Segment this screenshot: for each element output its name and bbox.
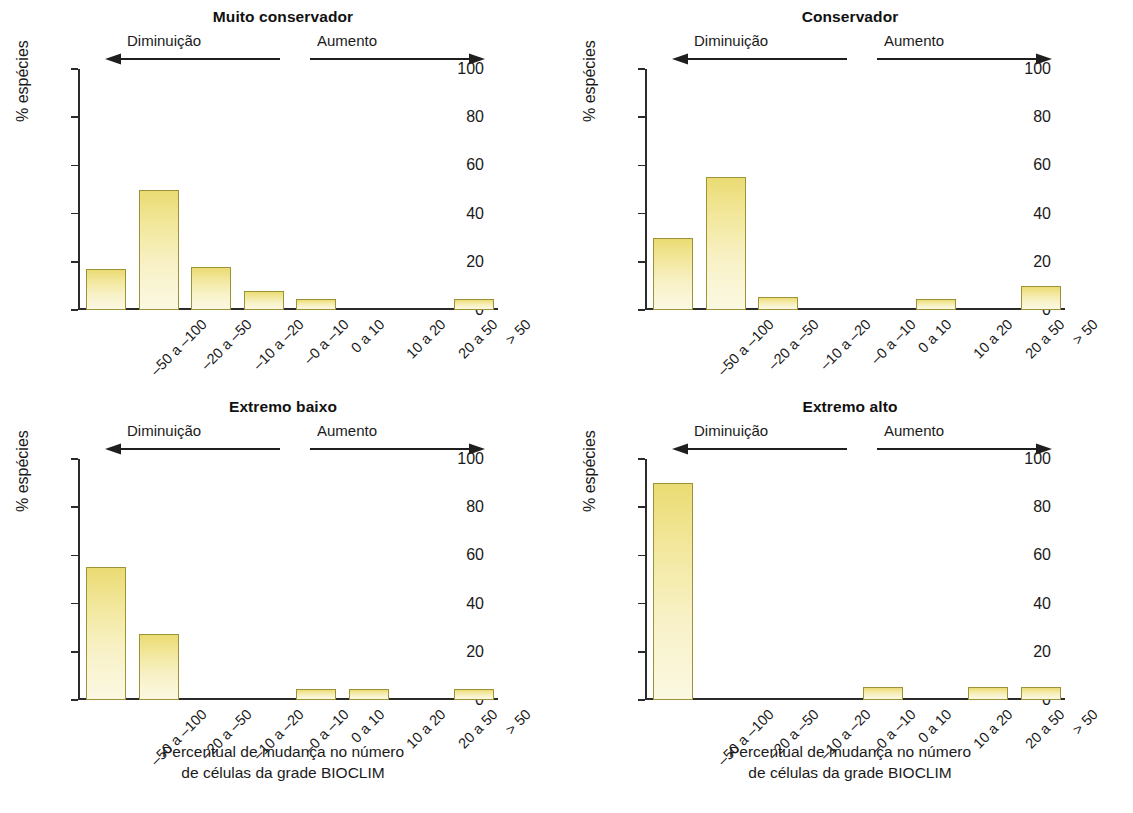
y-axis-label: % espécies xyxy=(14,430,32,512)
y-axis-tick-label: 40 xyxy=(466,594,484,612)
bar xyxy=(758,297,798,310)
bar xyxy=(139,190,179,311)
x-axis-tick-label: 10 a 20 xyxy=(970,316,1016,362)
bar xyxy=(349,689,389,700)
y-axis-tick-label: 20 xyxy=(1033,252,1051,270)
chart-panel-top-right: ConservadorDiminuiçãoAumento% espécies02… xyxy=(567,0,1133,406)
direction-annotations: DiminuiçãoAumento xyxy=(672,422,1052,464)
y-axis-tick xyxy=(638,458,645,460)
y-axis-tick-label: 60 xyxy=(1033,546,1051,564)
y-axis-label: % espécies xyxy=(581,430,599,512)
y-axis-tick xyxy=(71,603,78,605)
y-axis-tick-label: 60 xyxy=(466,156,484,174)
x-axis-tick-label: > 50 xyxy=(502,316,534,348)
panel-title: Conservador xyxy=(567,8,1133,26)
x-axis-tick-label: 20 a 50 xyxy=(1022,316,1068,362)
panel-title: Muito conservador xyxy=(0,8,566,26)
y-axis-tick xyxy=(638,309,645,311)
bar xyxy=(706,177,746,310)
y-axis-line xyxy=(645,69,647,310)
y-axis-tick xyxy=(71,699,78,701)
x-axis-caption: Percentual de mudança no númerode célula… xyxy=(567,742,1133,784)
y-axis-tick xyxy=(71,555,78,557)
y-axis-tick-label: 40 xyxy=(1033,204,1051,222)
decrease-arrow-icon xyxy=(105,52,280,66)
x-axis-tick-label: –50 a –100 xyxy=(715,316,778,379)
plot-area: 020406080100 xyxy=(645,69,1065,310)
x-axis-caption-line-2: de células da grade BIOCLIM xyxy=(567,763,1133,784)
x-axis-tick-label: 0 a 10 xyxy=(915,316,955,356)
decrease-label: Diminuição xyxy=(694,422,768,439)
y-axis-tick-label: 40 xyxy=(1033,594,1051,612)
plot-area: 020406080100 xyxy=(78,69,498,310)
direction-annotations: DiminuiçãoAumento xyxy=(105,422,485,464)
y-axis-tick-label: 100 xyxy=(457,60,484,78)
decrease-label: Diminuição xyxy=(694,32,768,49)
x-axis-tick-label: > 50 xyxy=(1069,706,1101,738)
y-axis-tick-label: 40 xyxy=(466,204,484,222)
increase-label: Aumento xyxy=(317,422,377,439)
y-axis-tick-label: 60 xyxy=(466,546,484,564)
direction-annotations: DiminuiçãoAumento xyxy=(672,32,1052,74)
x-axis-tick-label: > 50 xyxy=(1069,316,1101,348)
bar xyxy=(653,483,693,700)
decrease-label: Diminuição xyxy=(127,422,201,439)
y-axis-tick xyxy=(638,603,645,605)
y-axis-line xyxy=(645,459,647,700)
y-axis-tick xyxy=(638,261,645,263)
y-axis-label: % espécies xyxy=(14,40,32,122)
x-axis-tick-label: 10 a 20 xyxy=(403,316,449,362)
y-axis-tick-label: 80 xyxy=(1033,108,1051,126)
x-axis-caption-line-1: Percentual de mudança no número xyxy=(567,742,1133,763)
y-axis-tick xyxy=(71,309,78,311)
x-axis-tick-label: 0 a 10 xyxy=(915,706,955,746)
bar xyxy=(139,634,179,700)
decrease-arrow-icon xyxy=(672,52,847,66)
x-axis-tick-label: 0 a 10 xyxy=(348,706,388,746)
y-axis-tick xyxy=(638,651,645,653)
x-axis-tick-label: > 50 xyxy=(502,706,534,738)
y-axis-label: % espécies xyxy=(581,40,599,122)
bar xyxy=(296,299,336,310)
y-axis-tick-label: 20 xyxy=(1033,642,1051,660)
increase-label: Aumento xyxy=(884,32,944,49)
x-axis-tick-label: –10 a –20 xyxy=(250,316,307,373)
x-axis-tick-label: –50 a –100 xyxy=(148,316,211,379)
y-axis-line xyxy=(78,69,80,310)
increase-label: Aumento xyxy=(884,422,944,439)
y-axis-tick xyxy=(638,116,645,118)
plot-area: 020406080100 xyxy=(78,459,498,700)
y-axis-tick xyxy=(638,699,645,701)
x-axis-tick-label: –0 a –10 xyxy=(300,316,351,367)
bar xyxy=(454,299,494,310)
bar xyxy=(244,291,284,310)
y-axis-tick xyxy=(71,458,78,460)
y-axis-tick xyxy=(71,651,78,653)
chart-panel-top-left: Muito conservadorDiminuiçãoAumento% espé… xyxy=(0,0,566,406)
x-axis-tick-label: 0 a 10 xyxy=(348,316,388,356)
plot-area: 020406080100 xyxy=(645,459,1065,700)
bar xyxy=(863,687,903,700)
decrease-label: Diminuição xyxy=(127,32,201,49)
bar xyxy=(296,689,336,700)
x-axis-tick-labels: –50 a –100–20 a –50–10 a –20–0 a –100 a … xyxy=(645,312,1065,392)
decrease-arrow-icon xyxy=(672,442,847,456)
y-axis-tick xyxy=(638,165,645,167)
y-axis-tick-label: 80 xyxy=(1033,498,1051,516)
decrease-arrow-icon xyxy=(105,442,280,456)
x-axis-caption: Percentual de mudança no númerode célula… xyxy=(0,742,566,784)
bar xyxy=(968,687,1008,700)
x-axis-tick-label: –0 a –10 xyxy=(867,316,918,367)
y-axis-tick-label: 100 xyxy=(1024,450,1051,468)
y-axis-tick xyxy=(638,506,645,508)
y-axis-tick-label: 20 xyxy=(466,252,484,270)
y-axis-tick-label: 100 xyxy=(1024,60,1051,78)
y-axis-tick-label: 60 xyxy=(1033,156,1051,174)
y-axis-tick xyxy=(71,165,78,167)
chart-panel-bottom-left: Extremo baixoDiminuiçãoAumento% espécies… xyxy=(0,390,566,796)
y-axis-tick xyxy=(71,116,78,118)
bar xyxy=(86,567,126,700)
x-axis-tick-label: –10 a –20 xyxy=(817,316,874,373)
x-axis-caption-line-2: de células da grade BIOCLIM xyxy=(0,763,566,784)
bar xyxy=(1021,286,1061,310)
